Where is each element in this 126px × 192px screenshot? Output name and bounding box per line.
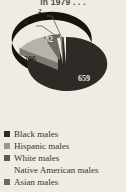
legend-swatch-white-males (4, 155, 10, 161)
chart-figure: in 1979 . . . 659 (0, 0, 126, 192)
legend-item-hispanic-males: Hispanic males (2, 140, 126, 152)
pie-data-label-white-males: 82 (45, 36, 53, 44)
legend-label-native-american-males: Native American males (14, 165, 98, 176)
pie-chart-svg (0, 8, 126, 128)
legend-item-asian-males: Asian males (2, 176, 126, 188)
pie-data-label-black-males: 659 (78, 75, 90, 83)
chart-legend: Black males Hispanic males White males N… (2, 128, 126, 188)
legend-item-black-males: Black males (2, 128, 126, 140)
pie-data-label-hispanic-males: 206 (24, 56, 36, 64)
legend-item-native-american-males: Native American males (2, 164, 126, 176)
legend-swatch-native-american-males (4, 167, 10, 173)
legend-item-white-males: White males (2, 152, 126, 164)
chart-title: in 1979 . . . (0, 0, 126, 6)
pie-data-label-native-american-males: 8 (24, 19, 28, 26)
legend-label-white-males: White males (14, 153, 59, 164)
pie-data-label-asian-males: 2 (38, 8, 42, 15)
legend-swatch-black-males (4, 131, 10, 137)
legend-label-asian-males: Asian males (14, 177, 58, 188)
pie-chart: 659 206 82 8 2 (0, 8, 126, 128)
legend-swatch-hispanic-males (4, 143, 10, 149)
legend-label-hispanic-males: Hispanic males (14, 141, 69, 152)
legend-swatch-asian-males (4, 179, 10, 185)
legend-label-black-males: Black males (14, 129, 58, 140)
